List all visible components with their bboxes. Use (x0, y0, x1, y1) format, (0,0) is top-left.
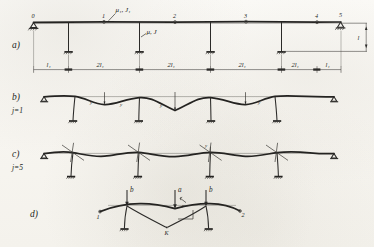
brace-right (168, 206, 206, 227)
vertex-k-marker (166, 227, 168, 229)
panel-b-label: b) (12, 92, 20, 103)
load-label-a-center: a (178, 186, 182, 194)
panel-c: y c) j=5 (11, 143, 338, 179)
engineering-diagram: 0 1 2 3 4 5 μ₁, J₁ μ, J l (0, 0, 374, 247)
girder-beam (34, 22, 342, 23)
stiffness-leader-column (141, 34, 146, 37)
span-label-3: 2l₁ (167, 61, 174, 68)
girder-beam-shadow (34, 23, 340, 24)
span-label-6: l₁ (326, 61, 330, 68)
load-label-b-left: b (130, 186, 134, 194)
panel-b-mode: j=1 (11, 106, 23, 115)
panel-a-label: a) (12, 40, 20, 51)
deflected-shape-b (44, 96, 334, 111)
column-group (64, 22, 286, 54)
panel-c-label: c) (12, 149, 19, 160)
deflected-shape-d (100, 204, 240, 212)
stiffness-label-beam: μ₁, J₁ (116, 6, 131, 14)
span-label-4: 2l₁ (238, 61, 245, 68)
panel-b: y y y y b) j=1 (11, 92, 338, 124)
node-number-4: 4 (315, 12, 318, 19)
stiffness-label-column: μ, J (147, 28, 158, 36)
node-label-d-right: 2 (242, 211, 245, 218)
vertex-label-k: K (163, 230, 169, 236)
node-number-0: 0 (31, 12, 35, 19)
rotation-tangents-c (62, 143, 288, 162)
span-dimension-chain: l₁ 2l₁ 2l₁ 2l₁ 2l₁ l₁ (34, 31, 341, 73)
span-label-1: l₁ (47, 61, 51, 68)
span-label-5: 2l₁ (291, 61, 298, 68)
node-number-3: 3 (243, 12, 247, 19)
support-pin-left-b (40, 97, 48, 102)
load-label-b-right: b (209, 186, 213, 194)
height-dimension-label: l (358, 34, 360, 41)
height-dimension: l (283, 23, 368, 51)
panel-d-label: d) (30, 209, 38, 220)
stiffness-leader-beam (109, 13, 116, 20)
node-number-5: 5 (339, 11, 342, 18)
support-pin-left-c (40, 154, 48, 159)
panel-c-mode: j=5 (11, 163, 23, 172)
amplitude-label-b: y (119, 102, 123, 107)
node-label-d-left: 1 (97, 213, 100, 220)
brace-left (127, 206, 166, 227)
panel-d: b a b y (30, 186, 245, 236)
span-label-2: 2l₁ (96, 61, 103, 68)
panel-a: 0 1 2 3 4 5 μ₁, J₁ μ, J l (12, 6, 368, 72)
node-number-1: 1 (102, 12, 105, 19)
deflected-shape-c (44, 152, 334, 157)
amplitude-marks-b: y y y y (89, 92, 261, 110)
figure-sheet: 0 1 2 3 4 5 μ₁, J₁ μ, J l (0, 0, 374, 247)
amplitude-label-c: y (204, 143, 208, 148)
node-number-2: 2 (173, 12, 176, 19)
